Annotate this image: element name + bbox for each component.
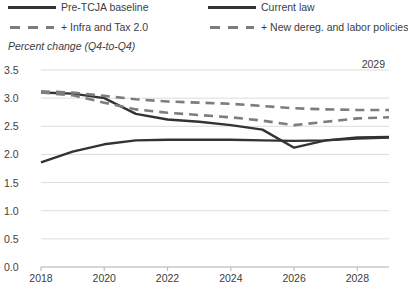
y-axis-tick-label: 1.0 <box>4 205 30 217</box>
y-axis-tick-label: 2.0 <box>4 148 30 160</box>
y-axis-tick-label: 1.5 <box>4 177 30 189</box>
x-axis-tick-label: 2024 <box>219 272 242 284</box>
x-axis-tick-label: 2028 <box>346 272 369 284</box>
series-line <box>41 138 389 163</box>
data-series <box>41 91 389 162</box>
x-axis-tick-label: 2020 <box>93 272 116 284</box>
x-axis-tick-label: 2022 <box>156 272 179 284</box>
y-axis-tick-label: 0.0 <box>4 261 30 273</box>
x-axis-tick-label: 2026 <box>282 272 305 284</box>
x-axis-tick-label: 2018 <box>29 272 52 284</box>
y-axis-tick-label: 0.5 <box>4 233 30 245</box>
y-axis-tick-label: 3.0 <box>4 92 30 104</box>
y-axis-tick-label: 2.5 <box>4 120 30 132</box>
y-axis-tick-label: 3.5 <box>4 64 30 76</box>
